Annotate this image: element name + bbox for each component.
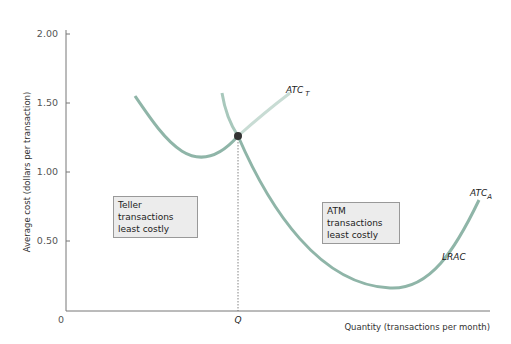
xtick-q: Q — [234, 315, 241, 325]
ytick-label: 0.50 — [37, 235, 58, 246]
atc-t-label: ATCT — [285, 85, 310, 98]
lrac-label: LRAC — [442, 252, 466, 262]
y-axis-label: Average cost (dollars per transaction) — [22, 92, 32, 253]
x-axis-label: Quantity (transactions per month) — [344, 322, 490, 332]
ytick-label: 1.00 — [37, 166, 58, 177]
ytick-label: 2.00 — [37, 28, 58, 39]
atc-t-curve-upper — [238, 93, 290, 136]
intersection-point — [234, 132, 242, 140]
ytick-label: 1.50 — [37, 97, 58, 108]
origin-label: 0 — [58, 314, 64, 325]
atc-a-label: ATCA — [469, 188, 492, 201]
teller-annotation-box: Teller transactions least costly — [113, 196, 198, 238]
atm-annotation-box: ATM transactions least costly — [322, 202, 400, 244]
lrac-teller-segment — [135, 96, 238, 157]
atc-a-curve-upper — [222, 93, 238, 136]
chart: 2.00 1.50 1.00 0.50 0 Average cost (doll… — [0, 0, 511, 344]
